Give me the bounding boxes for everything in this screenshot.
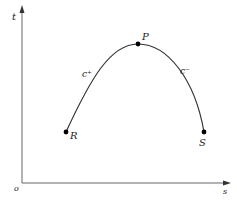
t-axis-arrow-icon <box>20 5 25 13</box>
curve-c <box>66 44 204 132</box>
point-s <box>202 130 207 135</box>
point-p-label: P <box>141 31 149 42</box>
s-axis-arrow-icon <box>223 181 231 186</box>
point-r-label: R <box>69 130 78 141</box>
point-r <box>64 130 69 135</box>
diagram-canvas: t o s R P S c⁺ c⁻ <box>0 0 237 205</box>
origin-label: o <box>14 184 19 193</box>
s-axis-label: s <box>223 187 227 196</box>
curve-right-label: c⁻ <box>180 66 190 76</box>
t-axis-label: t <box>12 11 17 22</box>
curve-left-label: c⁺ <box>82 69 92 79</box>
point-s-label: S <box>199 137 206 148</box>
point-p <box>136 42 141 47</box>
